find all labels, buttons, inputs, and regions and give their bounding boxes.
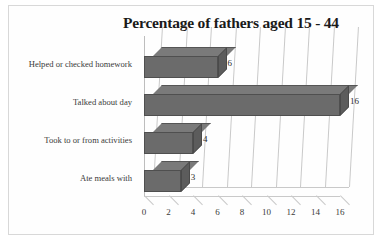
x-tick-label: 4 — [183, 207, 203, 217]
bar-front-face — [144, 170, 181, 192]
x-tick-label: 6 — [208, 207, 228, 217]
axis-depth-line — [340, 195, 350, 205]
x-tick-label: 2 — [159, 207, 179, 217]
bar-value-label: 4 — [203, 134, 208, 144]
x-tick-label: 10 — [257, 207, 277, 217]
bar-value-label: 6 — [228, 58, 233, 68]
x-tick-label: 0 — [134, 207, 154, 217]
x-tick-label: 8 — [232, 207, 252, 217]
plot-area: 02468101214166Helped or checked homework… — [0, 0, 384, 245]
gridline — [349, 27, 359, 187]
x-axis-line — [144, 196, 340, 197]
bar-front-face — [144, 132, 193, 154]
bar-top-face — [153, 123, 211, 132]
bar-top-face — [153, 85, 358, 94]
x-tick-label: 16 — [330, 207, 350, 217]
x-tick-label: 12 — [281, 207, 301, 217]
bar — [144, 85, 340, 116]
x-tick-label: 14 — [306, 207, 326, 217]
bar — [144, 161, 181, 192]
bar-front-face — [144, 94, 340, 116]
bar-value-label: 3 — [191, 172, 196, 182]
category-label: Took to or from activities — [4, 135, 132, 145]
bar — [144, 123, 193, 154]
bar-front-face — [144, 56, 218, 78]
category-label: Helped or checked homework — [4, 59, 132, 69]
bar — [144, 47, 218, 78]
bar-top-face — [153, 161, 199, 170]
category-label: Talked about day — [4, 97, 132, 107]
category-label: Ate meals with — [4, 173, 132, 183]
bar-value-label: 16 — [350, 96, 359, 106]
